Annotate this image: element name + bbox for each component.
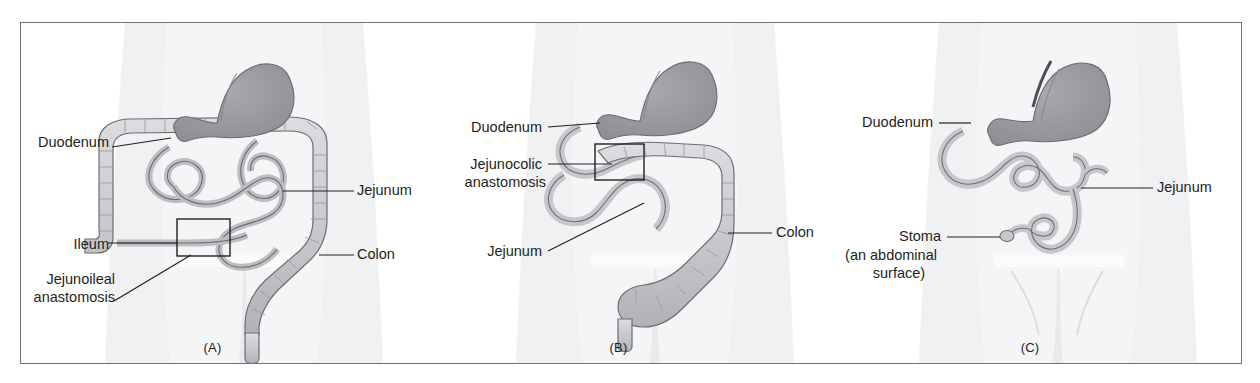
label-jejunoileal-anastomosis-line2: anastomosis [0, 289, 115, 306]
label-duodenum-c: Duodenum [829, 114, 933, 131]
figure-root: Duodenum Ileum Jejunoileal anastomosis J… [0, 0, 1260, 383]
label-jejunum-a: Jejunum [357, 182, 412, 199]
label-colon-b: Colon [776, 224, 814, 241]
panel-c-caption: (C) [827, 340, 1233, 355]
label-jejunoileal-anastomosis-line1: Jejunoileal [0, 271, 115, 288]
label-jejunum-c: Jejunum [1157, 179, 1212, 196]
label-stoma-sub-line1: (an abdominal [833, 247, 949, 264]
label-colon-a: Colon [357, 246, 395, 263]
label-jejunocolic-anastomosis-line2: anastomosis [434, 174, 546, 191]
label-duodenum-b: Duodenum [442, 119, 542, 136]
label-jejunocolic-anastomosis-line1: Jejunocolic [434, 156, 542, 173]
label-jejunum-b: Jejunum [446, 243, 542, 260]
stoma-opening-c [1000, 231, 1014, 242]
panel-c: Duodenum Jejunum Stoma (an abdominal sur… [835, 23, 1241, 363]
label-duodenum-a: Duodenum [13, 134, 109, 151]
panel-b-caption: (B) [415, 340, 822, 355]
panel-a-caption: (A) [9, 340, 416, 355]
panel-a: Duodenum Ileum Jejunoileal anastomosis J… [21, 23, 428, 363]
label-ileum-a: Ileum [37, 236, 109, 253]
panel-b-illustration [428, 23, 835, 363]
panel-b: Duodenum Jejunocolic anastomosis Jejunum… [428, 23, 835, 363]
label-stoma-c: Stoma [851, 228, 941, 245]
label-stoma-sub-line2: surface) [841, 265, 957, 282]
